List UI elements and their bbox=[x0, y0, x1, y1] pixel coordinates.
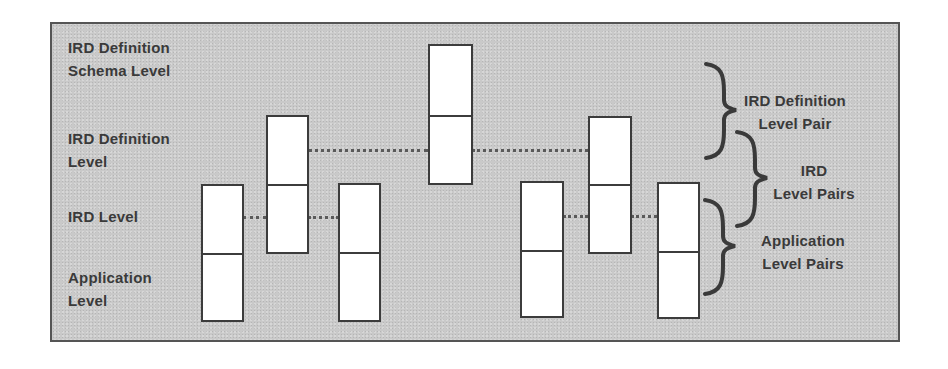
connector-def-level-left bbox=[308, 149, 428, 152]
label-ird-level: IRD Level bbox=[68, 205, 138, 228]
brace-icon-ird-level-pairs bbox=[735, 130, 769, 228]
label-application-level: Application Level bbox=[68, 266, 152, 312]
label-ird-level-pairs: IRD Level Pairs bbox=[766, 159, 862, 205]
brace-icon-application-level-pairs bbox=[703, 198, 737, 296]
pair-box-app-ird-3 bbox=[520, 181, 564, 318]
connector-ird-level-4 bbox=[631, 215, 657, 218]
pair-box-app-ird-1 bbox=[201, 184, 244, 322]
pair-box-ird-def-1 bbox=[266, 115, 309, 254]
pair-box-ird-def-2 bbox=[588, 116, 632, 254]
label-ird-definition-level-pair: IRD Definition Level Pair bbox=[734, 89, 856, 135]
pair-box-app-ird-4 bbox=[657, 182, 700, 319]
connector-def-level-right bbox=[472, 149, 588, 152]
connector-ird-level-2 bbox=[308, 216, 339, 219]
label-ird-definition-level: IRD Definition Level bbox=[68, 127, 170, 173]
pair-box-def-schema bbox=[428, 44, 473, 185]
connector-ird-level-3 bbox=[563, 215, 588, 218]
connector-ird-level-1 bbox=[243, 216, 266, 219]
brace-icon-def-level-pair bbox=[704, 62, 738, 160]
label-application-level-pairs: Application Level Pairs bbox=[752, 229, 854, 275]
label-ird-definition-schema-level: IRD Definition Schema Level bbox=[68, 36, 170, 82]
pair-box-app-ird-2 bbox=[338, 183, 381, 322]
